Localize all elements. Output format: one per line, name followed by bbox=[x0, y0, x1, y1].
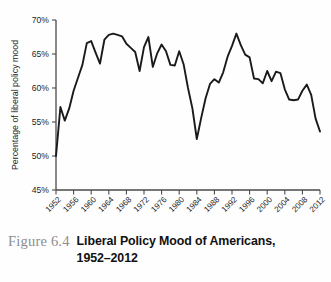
x-tick-label: 2000 bbox=[255, 195, 274, 214]
x-tick-label: 1960 bbox=[79, 195, 98, 214]
x-tick-label: 2004 bbox=[273, 195, 292, 214]
figure-caption: Figure 6.4 Liberal Policy Mood of Americ… bbox=[0, 228, 331, 282]
y-tick-label: 50% bbox=[32, 151, 50, 161]
x-tick-label: 1984 bbox=[185, 195, 204, 214]
x-tick-label: 1996 bbox=[237, 195, 256, 214]
x-tick-label: 1964 bbox=[97, 195, 116, 214]
chart-area: 45%50%55%60%65%70% 195219561960196419681… bbox=[0, 0, 331, 228]
data-series-line bbox=[56, 34, 320, 156]
y-tick-label: 55% bbox=[32, 117, 50, 127]
x-tick-group: 1952195619601964196819721976198019841988… bbox=[44, 190, 327, 214]
caption-line-2: 1952–2012 bbox=[77, 251, 138, 265]
x-tick-label: 1980 bbox=[167, 195, 186, 214]
x-tick-label: 1968 bbox=[114, 195, 133, 214]
figure-number: Figure 6.4 bbox=[8, 233, 70, 250]
x-tick-label: 2012 bbox=[308, 195, 327, 214]
line-chart: 45%50%55%60%65%70% 195219561960196419681… bbox=[0, 0, 331, 228]
x-tick-label: 1956 bbox=[61, 195, 80, 214]
y-tick-group: 45%50%55%60%65%70% bbox=[32, 15, 56, 195]
y-axis-title: Percentage of liberal policy mood bbox=[10, 40, 20, 170]
y-tick-label: 65% bbox=[32, 49, 50, 59]
x-tick-label: 2008 bbox=[290, 195, 309, 214]
x-tick-label: 1952 bbox=[44, 195, 63, 214]
x-tick-label: 1972 bbox=[132, 195, 151, 214]
x-tick-label: 1992 bbox=[220, 195, 239, 214]
caption-title: Liberal Policy Mood of Americans, 1952–2… bbox=[77, 233, 276, 266]
y-tick-label: 70% bbox=[32, 15, 50, 25]
caption-row: Figure 6.4 Liberal Policy Mood of Americ… bbox=[8, 233, 326, 266]
x-tick-label: 1988 bbox=[202, 195, 221, 214]
y-tick-label: 45% bbox=[32, 185, 50, 195]
y-tick-label: 60% bbox=[32, 83, 50, 93]
figure-container: 45%50%55%60%65%70% 195219561960196419681… bbox=[0, 0, 331, 282]
caption-line-1: Liberal Policy Mood of Americans, bbox=[77, 234, 276, 248]
x-tick-label: 1976 bbox=[149, 195, 168, 214]
